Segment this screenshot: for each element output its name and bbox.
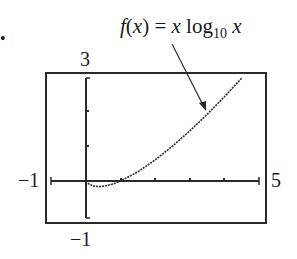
plot-frame [46,73,266,223]
arrow-head-icon [199,101,206,111]
plot-canvas [0,0,297,259]
annotation-arrow [172,44,204,107]
function-curve [88,78,242,187]
